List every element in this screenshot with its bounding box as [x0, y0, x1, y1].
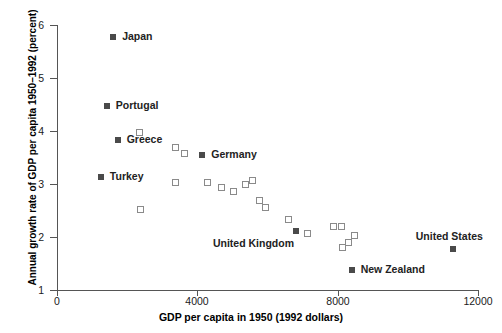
data-point-open [172, 179, 179, 186]
data-point-open [230, 188, 237, 195]
data-point-open [330, 223, 337, 230]
data-point-open [351, 232, 358, 239]
y-tick [50, 25, 58, 26]
data-point-open [345, 239, 352, 246]
y-axis-line [57, 25, 58, 290]
data-point-open [262, 204, 269, 211]
x-tick-label: 4000 [172, 296, 222, 307]
data-point-open [249, 177, 256, 184]
data-point-label: Japan [122, 31, 152, 42]
data-point-open [304, 230, 311, 237]
x-axis-title: GDP per capita in 1950 (1992 dollars) [0, 311, 502, 323]
data-point-open [338, 223, 345, 230]
data-point-open [136, 129, 143, 136]
data-point-open [339, 244, 346, 251]
data-point-filled [349, 267, 355, 273]
data-point-open [204, 179, 211, 186]
x-tick-label: 12000 [453, 296, 502, 307]
data-point-open [172, 144, 179, 151]
data-point-filled [104, 103, 110, 109]
y-tick [50, 237, 58, 238]
x-axis-line [57, 290, 478, 291]
data-point-open [137, 206, 144, 213]
data-point-filled [115, 137, 121, 143]
data-point-label: United Kingdom [213, 238, 294, 249]
data-point-label: Greece [127, 134, 163, 145]
data-point-open [285, 216, 292, 223]
y-tick [50, 184, 58, 185]
data-point-filled [450, 246, 456, 252]
data-point-open [181, 150, 188, 157]
y-tick [50, 131, 58, 132]
y-axis-title: Annual growth rate of GDP per capita 195… [27, 3, 38, 293]
data-point-open [218, 184, 225, 191]
x-tick-label: 0 [32, 296, 82, 307]
data-point-label: United States [416, 231, 483, 242]
y-tick [50, 78, 58, 79]
data-point-filled [110, 34, 116, 40]
data-point-label: Portugal [116, 100, 159, 111]
data-point-filled [98, 174, 104, 180]
x-tick-label: 8000 [313, 296, 363, 307]
data-point-filled [199, 152, 205, 158]
data-point-label: New Zealand [361, 264, 425, 275]
data-point-filled [293, 228, 299, 234]
data-point-label: Germany [211, 149, 257, 160]
data-point-label: Turkey [110, 171, 144, 182]
scatter-chart: 123456 04000800012000 JapanPortugalGreec… [0, 0, 502, 333]
